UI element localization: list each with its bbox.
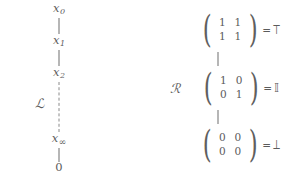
identity-matrix-row: ( 1 0 0 1 ) = 𝕀 [201,73,279,103]
connector-top-identity [218,52,219,66]
right-paren-icon-identity: ) [250,73,259,103]
cell-r1c0: 0 [214,145,230,159]
table-row: 0 0 [214,145,245,159]
right-chain-label-script-R: ℛ [170,82,180,95]
bottom-matrix-equality: = ⟘ [262,139,280,151]
connector-x1-x2 [59,50,60,66]
chain-node-x1: x1 [53,35,65,48]
chain-node-xinf-subscript-infinity: ∞ [59,137,67,147]
chain-node-zero: 0 [55,162,62,174]
chain-node-x2: x2 [53,67,65,80]
identity-matrix-equality: = 𝕀 [263,82,279,94]
equals-sign-bottom: = [262,139,271,151]
table-row: 0 0 [214,131,245,145]
connector-x0-x1 [59,18,60,34]
left-paren-icon-top: ( [203,15,212,45]
identity-matrix-table: 1 0 0 1 [216,74,247,102]
table-row: 0 1 [216,88,247,102]
cell-r1c1: 1 [231,88,247,102]
lattice-figure: ℒ x0 x1 x2 x∞ 0 ℛ ( 1 1 [0,0,297,177]
double-struck-top-icon: ⟙ [273,24,280,36]
chain-node-x0-subscript: 0 [60,8,65,17]
cell-r1c0: 1 [214,30,230,44]
cell-r0c0: 0 [214,131,230,145]
chain-node-x0-base: x [53,1,60,15]
chain-node-x0: x0 [53,3,65,16]
left-chain-label-script-L: ℒ [35,97,44,110]
cell-r0c0: 1 [216,74,232,88]
table-row: 1 1 [214,16,245,30]
connector-identity-bottom [218,110,219,124]
chain-node-x1-base: x [53,33,60,47]
table-row: 1 0 [216,74,247,88]
cell-r1c1: 0 [230,145,246,159]
chain-node-xinf-base: x [52,131,59,145]
chain-node-x-infinity: x∞ [52,133,67,147]
bottom-matrix-table: 0 0 0 0 [214,131,245,159]
double-struck-bottom-icon: ⟘ [273,139,280,151]
top-matrix-row: ( 1 1 1 1 ) = ⟙ [200,15,280,45]
top-matrix-equality: = ⟙ [262,24,280,36]
connector-x2-xinf-dashed [59,82,60,132]
double-struck-i-icon: 𝕀 [274,82,279,94]
chain-node-x1-subscript: 1 [60,40,65,49]
equals-sign-identity: = [263,82,272,94]
top-matrix-table: 1 1 1 1 [214,16,245,44]
right-paren-icon-top: ) [249,15,258,45]
cell-r1c1: 1 [230,30,246,44]
cell-r0c0: 1 [214,16,230,30]
chain-node-x2-subscript: 2 [60,72,65,81]
left-paren-icon-bottom: ( [203,130,212,160]
chain-node-x2-base: x [53,65,60,79]
cell-r0c1: 0 [230,131,246,145]
cell-r1c0: 0 [216,88,232,102]
cell-r0c1: 0 [231,74,247,88]
table-row: 1 1 [214,30,245,44]
bottom-matrix-row: ( 0 0 0 0 ) = ⟘ [200,130,280,160]
right-paren-icon-bottom: ) [249,130,258,160]
cell-r0c1: 1 [230,16,246,30]
left-paren-icon-identity: ( [204,73,213,103]
equals-sign-top: = [262,24,271,36]
